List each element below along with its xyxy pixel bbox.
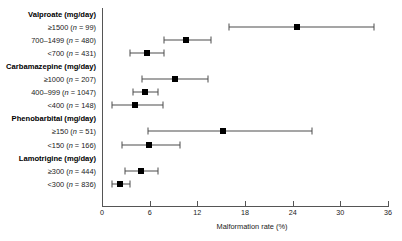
row-label: 400–999 (n = 1047)	[31, 88, 96, 97]
confidence-interval-line	[229, 27, 374, 28]
confidence-interval-cap	[112, 180, 113, 187]
point-estimate-marker	[144, 50, 150, 56]
point-estimate-marker	[172, 76, 178, 82]
x-axis-tick-label: 24	[289, 208, 297, 217]
row-label: <150 (n = 166)	[47, 140, 96, 149]
confidence-interval-cap	[129, 50, 130, 57]
confidence-interval-cap	[125, 167, 126, 174]
confidence-interval-line	[148, 131, 312, 132]
point-estimate-marker	[220, 128, 226, 134]
row-label: ≥1000 (n = 207)	[44, 75, 96, 84]
x-axis-tick	[245, 201, 246, 206]
row-label: ≥150 (n = 51)	[52, 127, 96, 136]
point-estimate-marker	[142, 89, 148, 95]
confidence-interval-cap	[163, 50, 164, 57]
x-axis-tick	[102, 201, 103, 206]
confidence-interval-cap	[121, 141, 122, 148]
row-label: ≥1500 (n = 99)	[48, 23, 96, 32]
row-label: <700 (n = 431)	[47, 49, 96, 58]
group-header-label: Carbamazepine (mg/day)	[6, 62, 96, 71]
confidence-interval-cap	[132, 89, 133, 96]
row-label: ≥300 (n = 444)	[48, 166, 96, 175]
confidence-interval-cap	[112, 102, 113, 109]
point-estimate-marker	[294, 24, 300, 30]
x-axis-tick-label: 18	[241, 208, 249, 217]
point-estimate-marker	[132, 102, 138, 108]
confidence-interval-cap	[208, 76, 209, 83]
x-axis-tick	[197, 201, 198, 206]
x-axis-tick-label: 12	[193, 208, 201, 217]
y-axis-line	[102, 8, 103, 206]
confidence-interval-cap	[311, 128, 312, 135]
group-header-label: Phenobarbital (mg/day)	[12, 114, 96, 123]
x-axis-line	[102, 206, 389, 207]
forest-plot-figure: Valproate (mg/day)≥1500 (n = 99)700–1499…	[0, 0, 402, 241]
confidence-interval-cap	[141, 76, 142, 83]
confidence-interval-cap	[229, 24, 230, 31]
point-estimate-marker	[117, 181, 123, 187]
confidence-interval-cap	[179, 141, 180, 148]
x-axis-tick	[388, 201, 389, 206]
point-estimate-marker	[183, 37, 189, 43]
group-header-label: Lamotrigine (mg/day)	[19, 153, 96, 162]
confidence-interval-cap	[158, 89, 159, 96]
confidence-interval-cap	[374, 24, 375, 31]
x-axis-tick-label: 36	[384, 208, 392, 217]
confidence-interval-cap	[148, 128, 149, 135]
x-axis-tick	[293, 201, 294, 206]
x-axis-tick	[150, 201, 151, 206]
plot-area: Malformation rate (%) 061218243036	[102, 0, 402, 241]
x-axis-tick-label: 30	[336, 208, 344, 217]
confidence-interval-cap	[163, 37, 164, 44]
point-estimate-marker	[146, 142, 152, 148]
group-header-label: Valproate (mg/day)	[28, 10, 96, 19]
confidence-interval-cap	[163, 102, 164, 109]
x-axis-tick-label: 6	[148, 208, 152, 217]
x-axis-tick-label: 0	[100, 208, 104, 217]
confidence-interval-cap	[158, 167, 159, 174]
point-estimate-marker	[138, 168, 144, 174]
confidence-interval-cap	[210, 37, 211, 44]
confidence-interval-cap	[129, 180, 130, 187]
row-label-column: Valproate (mg/day)≥1500 (n = 99)700–1499…	[0, 0, 102, 241]
row-label: <300 (n = 836)	[47, 179, 96, 188]
x-axis-title: Malformation rate (%)	[102, 222, 402, 231]
row-label: 700–1499 (n = 480)	[31, 36, 96, 45]
row-label: <400 (n = 148)	[47, 101, 96, 110]
x-axis-tick	[340, 201, 341, 206]
